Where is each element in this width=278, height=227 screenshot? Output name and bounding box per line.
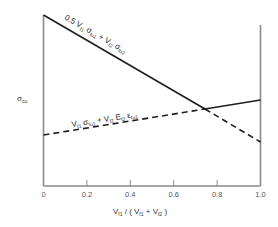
x-tick-label: 0 [41,190,45,199]
x-tick-label: 0.8 [212,190,222,199]
y-axis-label: σcu [17,94,27,104]
upper-formula-line-solid [44,15,206,109]
x-tick-label: 1.0 [255,190,265,199]
x-tick-label: 0.2 [82,190,92,199]
strength-vs-fraction-chart: 0 0.2 0.4 0.6 0.8 1.0 Vf1 / ( Vf1 + Vf2 … [0,0,278,227]
lower-formula-line-solid [205,100,261,109]
lower-formula-label: Vf1 σfu1 + Vf2 Ef2 εfu1 [71,110,139,130]
x-tick-label: 0.4 [125,190,135,199]
upper-formula-label: 0.5 Vf1 σfu1 + Vf2 σfu2 [63,13,129,56]
upper-formula-line-dashed [205,109,261,142]
x-axis-label: Vf1 / ( Vf1 + Vf2 ) [113,207,167,217]
x-tick-label: 0.6 [168,190,178,199]
